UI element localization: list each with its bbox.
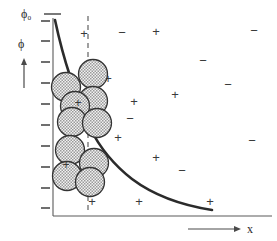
ion-minus: − [178, 163, 186, 178]
ion-minus: − [199, 53, 207, 68]
figure-canvas: + + + + + + + + + + − − − − − − − − [0, 0, 277, 241]
ion-plus: + [130, 94, 138, 109]
ion-plus: + [152, 150, 160, 165]
potential-decay-figure: + + + + + + + + + + − − − − − − − − [0, 0, 277, 241]
phi-axis-arrow [21, 58, 27, 88]
ion-circle [83, 109, 112, 138]
ion-plus: + [80, 26, 88, 41]
ion-plus: + [135, 194, 143, 209]
ion-minus: − [118, 25, 126, 40]
ion-minus: − [248, 133, 256, 148]
ion-circle [79, 60, 108, 89]
phi-axis-label: ϕ [18, 37, 24, 51]
ion-plus-inside-circle: + [74, 96, 81, 110]
ion-minus: − [250, 23, 258, 38]
y-axis-ticks [41, 21, 50, 208]
x-axis-label: x [247, 222, 253, 236]
x-axis-arrow [188, 226, 241, 232]
ion-plus-inside-circle: + [62, 158, 69, 172]
ion-plus: + [206, 194, 214, 209]
ion-plus: + [152, 24, 160, 39]
x-arrow-head [234, 226, 241, 232]
phi-arrow-head [21, 58, 27, 65]
ion-minus: − [126, 111, 134, 126]
ion-plus: + [114, 130, 122, 145]
adsorbed-ion-cluster-upper: + [52, 60, 112, 138]
ion-plus: + [171, 87, 179, 102]
ion-minus: − [224, 77, 232, 92]
phi-zero-label: ϕ₀ [21, 7, 32, 21]
ion-circle [76, 168, 105, 197]
